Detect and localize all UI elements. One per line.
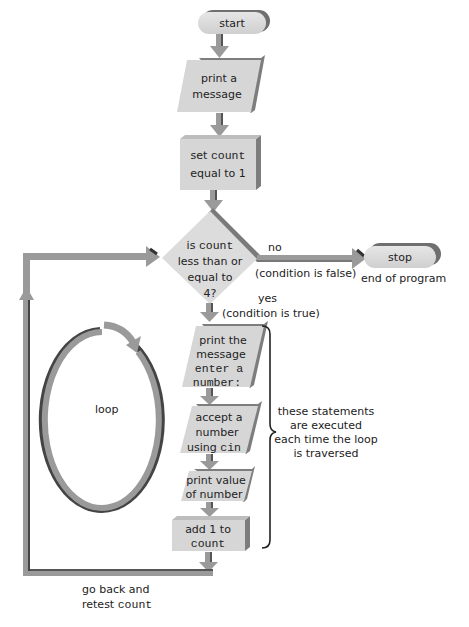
svg-text:number:: number:	[193, 376, 241, 389]
stop-terminator: stop	[364, 243, 441, 268]
svg-text:message: message	[192, 88, 242, 101]
yes-label: yes	[258, 292, 277, 305]
end-of-program-label: end of program	[361, 272, 446, 285]
flowchart: start print a message set count equal to…	[0, 0, 469, 627]
svg-text:4?: 4?	[204, 287, 217, 300]
yes-condition-label: (condition is true)	[222, 307, 320, 320]
start-terminator: start	[198, 10, 270, 34]
no-condition-label: (condition is false)	[255, 267, 356, 280]
arrow-prompt-to-accept	[200, 388, 219, 405]
no-label: no	[268, 241, 282, 254]
stop-label: stop	[388, 251, 412, 264]
arrow-print-to-set	[210, 113, 229, 137]
go-back-label-line1: go back and	[82, 583, 150, 596]
accept-number-io: accept a number using cin	[180, 401, 262, 454]
svg-text:using cin: using cin	[187, 441, 241, 454]
print-value-io: print value of number	[181, 466, 255, 502]
svg-text:count: count	[191, 537, 226, 550]
svg-text:message: message	[196, 348, 246, 361]
loop-cycle-icon	[42, 325, 162, 510]
svg-text:print the: print the	[199, 334, 247, 347]
svg-text:of number: of number	[185, 488, 243, 501]
svg-text:each time the loop: each time the loop	[274, 433, 377, 446]
go-back-label-line2: retest count	[82, 598, 152, 611]
svg-text:are executed: are executed	[290, 419, 362, 432]
svg-text:print a: print a	[201, 72, 237, 85]
svg-text:add 1 to: add 1 to	[185, 523, 231, 536]
svg-text:these statements: these statements	[278, 405, 375, 418]
svg-text:equal to 1: equal to 1	[190, 167, 246, 180]
arrow-start-to-print	[210, 34, 229, 58]
svg-text:equal to: equal to	[187, 271, 232, 284]
svg-text:print value: print value	[186, 474, 246, 487]
decision-diamond: is count less than or equal to 4?	[162, 208, 262, 304]
set-count-process: set count equal to 1	[180, 135, 261, 190]
loop-label: loop	[95, 403, 119, 416]
brace-note: these statements are executed each time …	[274, 405, 377, 460]
arrow-accept-to-printvalue	[200, 454, 219, 470]
svg-text:number: number	[196, 426, 239, 439]
start-label: start	[219, 17, 245, 30]
arrow-yes-down	[200, 303, 219, 322]
print-prompt-io: print the message enter a number:	[182, 321, 268, 389]
svg-text:set count: set count	[191, 149, 246, 162]
svg-text:enter a: enter a	[195, 362, 243, 375]
svg-text:less than or: less than or	[178, 255, 243, 268]
svg-text:accept a: accept a	[195, 411, 242, 424]
add-one-process: add 1 to count	[172, 516, 250, 551]
arrow-printvalue-to-add	[200, 502, 219, 517]
svg-text:is traversed: is traversed	[293, 447, 358, 460]
svg-text:is count: is count	[187, 239, 234, 252]
print-message-io: print a message	[177, 55, 265, 113]
